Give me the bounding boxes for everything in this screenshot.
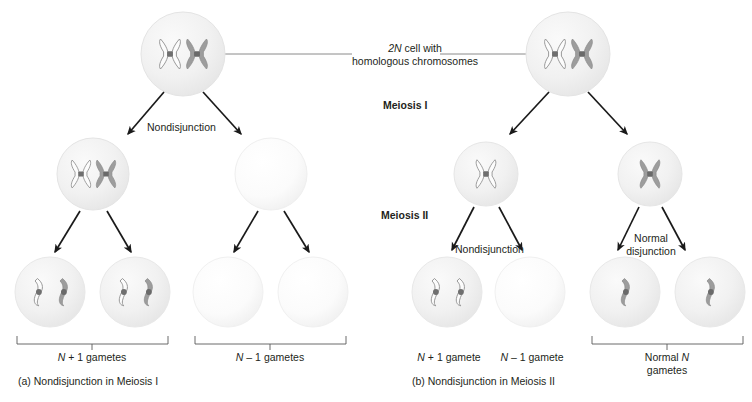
panel-b-label-n-plus-1: N + 1 gamete <box>417 351 480 364</box>
center-label-line2: homologous chromosomes <box>352 55 478 67</box>
panel-b-parent-cell <box>526 12 610 96</box>
panel-a-nondisjunction-label: Nondisjunction <box>147 121 216 134</box>
arrow-b-m1-right <box>588 92 627 134</box>
bracket-a-right <box>195 336 346 344</box>
center-label: 2N cell with homologous chromosomes <box>345 42 485 67</box>
panel-b-cell-dark <box>618 142 682 206</box>
meiosis-1-label: Meiosis I <box>383 99 427 112</box>
panel-b-gamete-2 <box>495 257 565 327</box>
panel-a-cell-with-both <box>57 138 129 210</box>
panel-b-bracket-label: Normal N gametes <box>625 351 710 376</box>
panel-b-nondisjunction-label: Nondisjunction <box>455 243 524 256</box>
arrow-a-m2-2 <box>107 211 131 252</box>
meiosis-2-label: Meiosis II <box>381 209 428 222</box>
panel-a-bracket-label-left: N + 1 gametes <box>58 351 127 364</box>
panel-a-bracket-label-right: N – 1 gametes <box>236 351 304 364</box>
panel-b-label-n-minus-1: N – 1 gamete <box>500 351 563 364</box>
bracket-b-right <box>592 336 743 344</box>
figure-canvas: 2N cell with homologous chromosomes Meio… <box>0 0 752 402</box>
panel-b-caption: (b) Nondisjunction in Meiosis II <box>412 375 555 387</box>
panel-a-parent-cell <box>141 12 225 96</box>
arrow-a-m2-3 <box>234 211 258 252</box>
normal-line1: Normal <box>634 232 668 244</box>
panel-b-gamete-1 <box>412 257 482 327</box>
panel-b-cell-light <box>454 142 518 206</box>
panel-b-gamete-4 <box>675 257 745 327</box>
panel-a-gamete-1 <box>15 257 85 327</box>
panel-a-gamete-4 <box>278 257 348 327</box>
panel-a-empty-cell <box>235 138 307 210</box>
panel-a-gamete-3 <box>193 257 263 327</box>
panel-b-normal-disjunction-label: Normal disjunction <box>616 232 686 257</box>
arrow-b-m1-left <box>510 92 549 134</box>
arrow-a-m2-1 <box>55 211 80 252</box>
panel-b-gamete-3 <box>590 257 660 327</box>
arrow-a-m2-4 <box>284 211 309 252</box>
bracket-a-left <box>17 336 168 344</box>
panel-a-caption: (a) Nondisjunction in Meiosis I <box>18 375 158 387</box>
panel-a-gamete-2 <box>100 257 170 327</box>
normal-line2: disjunction <box>626 245 676 257</box>
